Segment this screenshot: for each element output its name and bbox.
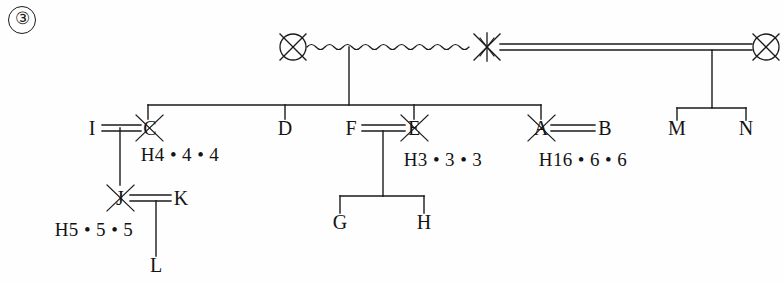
person-symbol-circle-crossed-top-right bbox=[753, 34, 779, 60]
person-label-K: K bbox=[174, 188, 188, 208]
haplotype-label-E: H3 • 3 • 3 bbox=[404, 150, 483, 169]
double-union-line-F-E bbox=[362, 125, 405, 131]
person-label-A: A bbox=[534, 118, 548, 138]
person-label-F: F bbox=[345, 118, 356, 138]
person-label-G: G bbox=[333, 212, 347, 232]
person-label-I: I bbox=[89, 118, 96, 138]
person-label-H: H bbox=[417, 212, 431, 232]
person-label-E: E bbox=[408, 118, 420, 138]
double-union-line-J-K bbox=[130, 195, 171, 201]
double-union-line-I-C bbox=[102, 125, 141, 131]
person-label-D: D bbox=[278, 118, 292, 138]
person-label-J: J bbox=[116, 188, 124, 208]
haplotype-label-C: H4 • 4 • 4 bbox=[141, 145, 220, 164]
person-symbol-circle-crossed-top-left bbox=[280, 34, 306, 60]
person-label-N: N bbox=[739, 118, 753, 138]
pedigree-figure: ③ bbox=[0, 0, 783, 283]
person-label-B: B bbox=[598, 118, 611, 138]
person-label-C: C bbox=[143, 118, 156, 138]
double-union-line-top bbox=[500, 44, 752, 50]
double-union-line-A-B bbox=[551, 125, 595, 131]
pedigree-diagram-svg bbox=[0, 0, 783, 283]
person-label-M: M bbox=[668, 118, 686, 138]
person-label-L: L bbox=[150, 255, 162, 275]
person-symbol-cross-top-mid bbox=[474, 33, 500, 61]
haplotype-label-J: H5 • 5 • 5 bbox=[55, 220, 134, 239]
wavy-union-line bbox=[307, 45, 469, 50]
haplotype-label-A: H16 • 6 • 6 bbox=[539, 150, 627, 169]
